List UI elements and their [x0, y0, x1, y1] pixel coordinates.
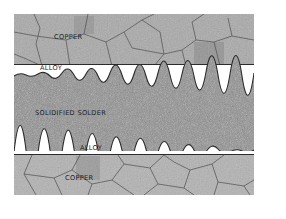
cross-section-illustration — [14, 14, 254, 195]
label-alloy-top: ALLOY — [40, 65, 62, 72]
label-alloy-bottom: ALLOY — [80, 145, 102, 152]
copper-top-layer — [14, 14, 254, 66]
label-copper-top: COPPER — [54, 34, 82, 41]
label-solidified-solder: SOLIDIFIED SOLDER — [35, 110, 106, 117]
copper-bottom-texture — [14, 154, 254, 195]
solder-joint-cross-section: COPPER ALLOY SOLIDIFIED SOLDER ALLOY COP… — [14, 14, 254, 195]
label-copper-bottom: COPPER — [65, 175, 93, 182]
copper-bottom-layer — [14, 154, 254, 195]
copper-top-dark-grain-2 — [74, 16, 94, 34]
